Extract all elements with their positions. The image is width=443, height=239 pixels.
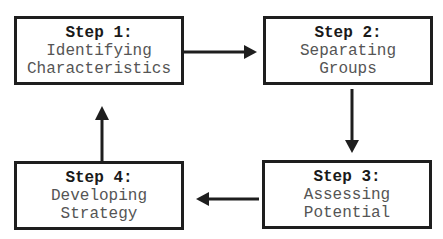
- arrow-step4-to-step1: [95, 106, 109, 161]
- step-4-title: Step 4:: [65, 169, 132, 187]
- arrow-step1-to-step2: [183, 45, 257, 59]
- step-2-line-2: Groups: [319, 60, 377, 78]
- step-4-box: Step 4: Developing Strategy: [14, 161, 184, 230]
- step-2-line-1: Separating: [300, 42, 396, 60]
- arrow-step2-to-step3: [345, 89, 359, 153]
- step-1-box: Step 1: Identifying Characteristics: [14, 16, 184, 85]
- step-3-line-2: Potential: [304, 204, 390, 222]
- step-1-line-1: Identifying: [46, 42, 152, 60]
- step-2-title: Step 2:: [314, 24, 381, 42]
- step-3-box: Step 3: Assessing Potential: [262, 160, 432, 229]
- step-4-line-1: Developing: [51, 187, 147, 205]
- step-1-title: Step 1:: [65, 24, 132, 42]
- step-2-box: Step 2: Separating Groups: [263, 16, 433, 85]
- step-4-line-2: Strategy: [61, 205, 138, 223]
- step-1-line-2: Characteristics: [27, 60, 171, 78]
- arrow-step3-to-step4: [196, 192, 259, 206]
- step-3-line-1: Assessing: [304, 186, 390, 204]
- step-3-title: Step 3:: [313, 168, 380, 186]
